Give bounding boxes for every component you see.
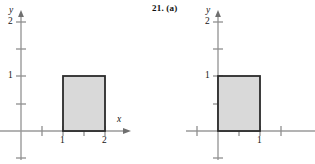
right-plot-svg <box>0 0 315 164</box>
right-y-axis-arrow-icon <box>215 10 221 17</box>
right-x-tick-label-1: 1 <box>257 136 262 146</box>
right-plot: y 2 1 1 <box>0 0 315 164</box>
figure-canvas: 21. (a) y x 2 <box>0 0 315 164</box>
right-y-tick-label-2: 2 <box>205 17 210 27</box>
right-shaded-region <box>218 76 260 131</box>
right-y-tick-label-1: 1 <box>205 71 210 81</box>
right-y-axis-label: y <box>206 6 210 16</box>
